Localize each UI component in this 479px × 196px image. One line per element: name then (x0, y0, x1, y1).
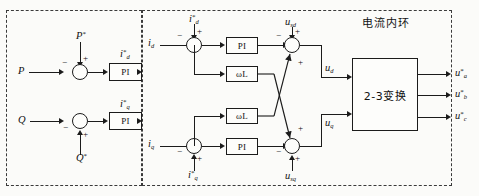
signal-label-usq: usq (285, 170, 296, 182)
wire-ua-out (418, 74, 447, 75)
wire-d-branch-down (194, 45, 195, 74)
wire-sum-q-inner-to-pi (202, 146, 221, 147)
wire-ud-to-transform (321, 77, 348, 78)
block-2-3-transform: 2-3变换 (352, 58, 418, 131)
signal-label-uq: uq (325, 117, 334, 129)
arrowhead-iq-ref-boundary (137, 118, 142, 124)
wire-iqref-to-sum (194, 158, 195, 171)
arrowhead-uc-out (446, 114, 451, 120)
signal-label-id-feedback: id (148, 37, 154, 49)
arrowhead-q-branch-to-wl (220, 113, 225, 119)
arrowhead-ua-out (446, 71, 451, 77)
block-wl-bottom: ωL (226, 108, 258, 124)
arrowhead-sum-d-to-pi (220, 42, 225, 48)
signal-label-uc-ref: u*c (455, 110, 467, 122)
signal-label-p-feedback: P (18, 65, 24, 76)
sign-sum-d-left: − (177, 31, 182, 40)
signal-label-id-ref-out: i*d (120, 48, 130, 60)
arrowhead-ub-out (446, 92, 451, 98)
wire-usq-to-sum (292, 159, 293, 171)
wire-uq-to-transform (321, 114, 348, 115)
wire-q-branch-up (194, 116, 195, 146)
wire-d-branch-to-wl (194, 74, 221, 75)
signal-label-iq-feedback: iq (148, 138, 154, 150)
signal-label-q-ref: Q* (76, 152, 87, 163)
wire-sum-p-to-pi (88, 72, 104, 73)
arrowhead-d-branch-to-wl (220, 71, 225, 77)
block-pi-q-inner: PI (226, 138, 258, 155)
signal-label-iq-ref-in: i*q (188, 169, 198, 181)
wire-q-to-sum (30, 121, 59, 122)
wire-pref-to-sum (80, 42, 81, 63)
sign-sum-uq-bottom: + (295, 154, 300, 163)
arrowhead-sum-q-to-pi (103, 118, 108, 124)
wire-sum-uq-right (300, 146, 322, 147)
block-diagram-canvas: 电流内环 P P* − + PI i*d Q Q* − + PI i*q id … (0, 0, 479, 196)
summing-junction-q (72, 113, 88, 129)
arrowhead-sum-p-to-pi (103, 69, 108, 75)
sign-sum-p-left: − (62, 58, 67, 67)
signal-label-q-feedback: Q (18, 114, 26, 125)
summing-junction-uq (284, 138, 300, 154)
wire-qref-to-sum (80, 135, 81, 155)
wire-pi-d-to-sum-ud (258, 45, 284, 46)
summing-junction-ud (284, 37, 300, 53)
signal-label-p-ref: P* (76, 30, 86, 41)
current-inner-loop-title: 电流内环 (362, 14, 410, 30)
sign-sum-q-bottom: + (83, 130, 88, 139)
signal-label-ub-ref: u*b (455, 88, 467, 100)
arrowhead-p-to-sum (59, 69, 64, 75)
sign-sum-ud-left: − (276, 31, 281, 40)
sign-sum-ud-diag: + (298, 58, 303, 67)
wire-sum-d-to-pi (202, 45, 221, 46)
sign-sum-ud-top: + (295, 27, 300, 36)
summing-junction-p (72, 64, 88, 80)
sign-sum-q-left: − (63, 123, 68, 132)
sign-sum-uq-left: − (276, 147, 281, 156)
sign-sum-uq-diag: + (298, 124, 303, 133)
wire-ub-out (418, 95, 447, 96)
sign-sum-q-inner-left: − (177, 147, 182, 156)
wire-sum-ud-down (321, 45, 322, 77)
block-pi-d: PI (226, 37, 258, 54)
wire-q-branch-to-wl (194, 116, 221, 117)
signal-label-ua-ref: u*a (455, 67, 467, 79)
sign-sum-q-inner-bottom: + (197, 154, 202, 163)
wire-uc-out (418, 117, 447, 118)
wire-sum-ud-right (300, 45, 322, 46)
arrowhead-id-ref-boundary (137, 69, 142, 75)
block-wl-top: ωL (226, 66, 258, 82)
signal-label-iq-ref-out: i*q (120, 98, 130, 110)
sign-sum-d-top: + (197, 27, 202, 36)
signal-label-ud: ud (325, 62, 334, 74)
arrowhead-sum-q-inner-to-pi (220, 143, 225, 149)
sign-sum-p-top: + (83, 54, 88, 63)
wire-p-to-sum (29, 72, 59, 73)
wire-sum-uq-up (321, 114, 322, 146)
wire-sum-q-to-pi (88, 121, 104, 122)
